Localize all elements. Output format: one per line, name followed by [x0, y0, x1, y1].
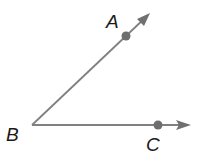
label-a: A [105, 11, 119, 32]
label-c: C [146, 134, 160, 155]
angle-abc-svg: A B C [0, 0, 204, 161]
point-c [154, 121, 163, 130]
label-b: B [6, 124, 19, 145]
angle-diagram: A B C [0, 0, 204, 161]
point-a [122, 32, 131, 41]
